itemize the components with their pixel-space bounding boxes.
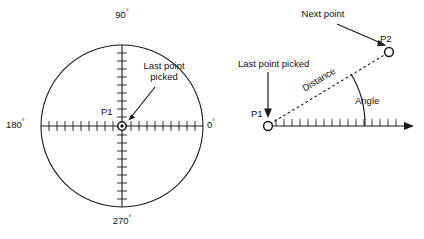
- last-point-picked-annotation-right: Last point picked: [238, 58, 309, 69]
- axis-label-0: 0°: [207, 119, 215, 130]
- angle-label: Angle: [355, 95, 379, 106]
- right-point-p2-marker: [385, 48, 394, 57]
- axis-label-90: 90°: [102, 9, 142, 20]
- last-point-picked-annotation-left: Last point picked: [128, 60, 200, 82]
- right-point-p2-label: P2: [380, 33, 392, 44]
- right-axis-ticks: [276, 119, 396, 126]
- right-point-p1-marker: [264, 122, 273, 131]
- right-point-p1-label: P1: [251, 108, 263, 119]
- technical-diagram: 90° 270° 180° 0° P1 Last point picked Ne…: [0, 0, 424, 239]
- last-point-picked-line1: Last point: [128, 60, 200, 71]
- axis-label-180: 180°: [6, 119, 25, 130]
- left-point-p1-label: P1: [101, 106, 113, 117]
- axis-label-270: 270°: [102, 215, 142, 226]
- last-point-picked-arrow: [128, 87, 155, 121]
- last-point-picked-arrow-right: [264, 72, 272, 118]
- last-point-picked-line2: picked: [128, 71, 200, 82]
- right-axis-arrowhead: [404, 122, 414, 130]
- next-point-annotation: Next point: [285, 8, 361, 19]
- left-point-p1-center-dot: [120, 124, 123, 127]
